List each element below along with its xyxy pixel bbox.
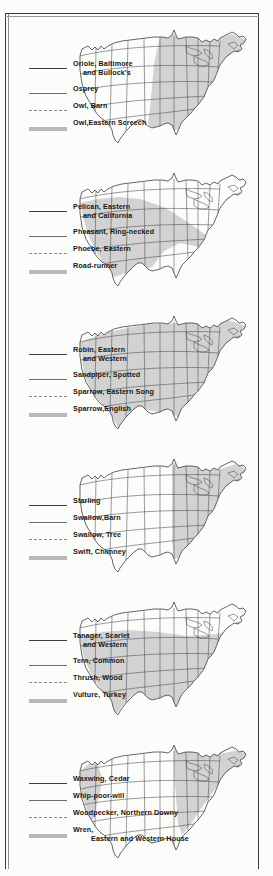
legend-swatch-solid-thin xyxy=(29,354,67,355)
legend-label-line1: Phoebe, Eastern xyxy=(73,244,131,253)
legend-item-label: Woodpecker, Northern Downy xyxy=(73,809,178,818)
legend-swatch-thick-gray xyxy=(29,834,67,838)
legend-item-label: Oriole, Baltimoreand Bullock's xyxy=(73,60,133,77)
legend-item-label: Pelican, Easternand California xyxy=(73,203,132,220)
legend-label-line1: Osprey xyxy=(73,84,98,93)
legend-label-line1: Woodpecker, Northern Downy xyxy=(73,808,178,817)
legend-item-label: Vulture, Turkey xyxy=(73,691,126,700)
range-map-panel: Pelican, Easternand CaliforniaPheasant, … xyxy=(9,159,258,305)
legend-swatch-thick-gray xyxy=(29,699,67,703)
legend-swatch-thick-gray xyxy=(29,556,67,560)
legend-item[interactable]: Woodpecker, Northern Downy xyxy=(29,809,199,826)
legend-label-line1: Oriole, Baltimore xyxy=(73,59,133,68)
legend-item[interactable]: Swallow, Tree xyxy=(29,531,199,548)
legend-label-line2: and Western xyxy=(73,641,130,650)
legend-item[interactable]: Sandpiper, Spotted xyxy=(29,371,199,388)
legend-label-line1: Wren, xyxy=(73,825,93,834)
range-map-panel: Tanager, Scarletand WesternTern, CommonT… xyxy=(9,588,258,734)
legend-swatch-solid-medium xyxy=(29,379,67,380)
legend-item[interactable]: Swift, Chimney xyxy=(29,548,199,565)
legend-item-label: Whip-poor-will xyxy=(73,792,124,801)
page-canvas: Oriole, Baltimoreand Bullock'sOspreyOwl,… xyxy=(0,0,273,876)
map-legend: Tanager, Scarletand WesternTern, CommonT… xyxy=(29,632,199,708)
legend-item[interactable]: Road-runner xyxy=(29,262,199,279)
legend-item[interactable]: Wren,Eastern and Western House xyxy=(29,826,199,851)
range-map-panel: Oriole, Baltimoreand Bullock'sOspreyOwl,… xyxy=(9,16,258,162)
legend-swatch-solid-thin xyxy=(29,211,67,212)
page-right-rule xyxy=(258,13,259,869)
legend-item-label: Robin, Easternand Western xyxy=(73,346,127,363)
legend-swatch-thick-gray xyxy=(29,270,67,274)
legend-label-line1: Owl,Eastern Screech xyxy=(73,118,146,127)
legend-item-label: Sandpiper, Spotted xyxy=(73,371,140,380)
legend-item[interactable]: Starling xyxy=(29,497,199,514)
legend-label-line1: Starling xyxy=(73,496,101,505)
legend-swatch-solid-medium xyxy=(29,93,67,94)
legend-swatch-dashed xyxy=(29,682,67,683)
legend-item-label: Waxwing, Cedar xyxy=(73,775,130,784)
legend-label-line1: Owl, Barn xyxy=(73,101,107,110)
legend-item[interactable]: Pelican, Easternand California xyxy=(29,203,199,228)
legend-swatch-dashed xyxy=(29,110,67,111)
legend-label-line2: and Western xyxy=(73,355,127,364)
map-legend: Waxwing, CedarWhip-poor-willWoodpecker, … xyxy=(29,775,199,851)
legend-item[interactable]: Oriole, Baltimoreand Bullock's xyxy=(29,60,199,85)
legend-item[interactable]: Robin, Easternand Western xyxy=(29,346,199,371)
legend-item[interactable]: Owl,Eastern Screech xyxy=(29,119,199,136)
legend-item-label: Owl,Eastern Screech xyxy=(73,119,146,128)
legend-item-label: Phoebe, Eastern xyxy=(73,245,131,254)
legend-swatch-thick-gray xyxy=(29,127,67,131)
legend-swatch-solid-thin xyxy=(29,505,67,506)
legend-label-line1: Pelican, Eastern xyxy=(73,202,130,211)
legend-swatch-solid-thin xyxy=(29,68,67,69)
legend-item[interactable]: Whip-poor-will xyxy=(29,792,199,809)
legend-item[interactable]: Swallow,Barn xyxy=(29,514,199,531)
legend-item[interactable]: Phoebe, Eastern xyxy=(29,245,199,262)
map-legend: Robin, Easternand WesternSandpiper, Spot… xyxy=(29,346,199,422)
legend-label-line1: Sparrow,English xyxy=(73,404,131,413)
legend-label-line2: and Bullock's xyxy=(73,69,133,78)
legend-swatch-dashed xyxy=(29,817,67,818)
legend-item[interactable]: Tanager, Scarletand Western xyxy=(29,632,199,657)
legend-item-label: Osprey xyxy=(73,85,98,94)
legend-item-label: Owl, Barn xyxy=(73,102,107,111)
legend-item[interactable]: Sparrow, Eastern Song xyxy=(29,388,199,405)
legend-label-line2: and California xyxy=(73,212,132,221)
legend-swatch-solid-medium xyxy=(29,800,67,801)
legend-item-label: Wren,Eastern and Western House xyxy=(73,826,189,843)
legend-swatch-solid-thin xyxy=(29,640,67,641)
legend-item-label: Swallow, Tree xyxy=(73,531,121,540)
legend-item[interactable]: Tern, Common xyxy=(29,657,199,674)
legend-item[interactable]: Waxwing, Cedar xyxy=(29,775,199,792)
legend-item-label: Tanager, Scarletand Western xyxy=(73,632,130,649)
range-map-panel: Robin, Easternand WesternSandpiper, Spot… xyxy=(9,302,258,448)
legend-swatch-dashed xyxy=(29,396,67,397)
legend-item[interactable]: Osprey xyxy=(29,85,199,102)
legend-label-line1: Sparrow, Eastern Song xyxy=(73,387,154,396)
legend-item[interactable]: Owl, Barn xyxy=(29,102,199,119)
legend-item-label: Swift, Chimney xyxy=(73,548,126,557)
page-top-rule xyxy=(5,13,259,14)
legend-item[interactable]: Sparrow,English xyxy=(29,405,199,422)
legend-label-line1: Waxwing, Cedar xyxy=(73,774,130,783)
legend-label-line1: Pheasant, Ring-necked xyxy=(73,227,154,236)
page-left-rule xyxy=(5,13,6,869)
legend-item-label: Starling xyxy=(73,497,101,506)
legend-label-line1: Swallow,Barn xyxy=(73,513,121,522)
legend-item[interactable]: Vulture, Turkey xyxy=(29,691,199,708)
legend-item-label: Swallow,Barn xyxy=(73,514,121,523)
legend-label-line1: Tern, Common xyxy=(73,656,124,665)
legend-label-line1: Swift, Chimney xyxy=(73,547,126,556)
legend-swatch-solid-medium xyxy=(29,522,67,523)
legend-item[interactable]: Thrush, Wood xyxy=(29,674,199,691)
legend-label-line1: Sandpiper, Spotted xyxy=(73,370,140,379)
legend-label-line1: Tanager, Scarlet xyxy=(73,631,130,640)
range-map-panel: StarlingSwallow,BarnSwallow, TreeSwift, … xyxy=(9,445,258,591)
legend-swatch-solid-medium xyxy=(29,665,67,666)
legend-item-label: Sparrow,English xyxy=(73,405,131,414)
map-legend: Oriole, Baltimoreand Bullock'sOspreyOwl,… xyxy=(29,60,199,136)
legend-swatch-solid-medium xyxy=(29,236,67,237)
legend-label-line1: Road-runner xyxy=(73,261,117,270)
legend-item-label: Thrush, Wood xyxy=(73,674,122,683)
legend-item[interactable]: Pheasant, Ring-necked xyxy=(29,228,199,245)
